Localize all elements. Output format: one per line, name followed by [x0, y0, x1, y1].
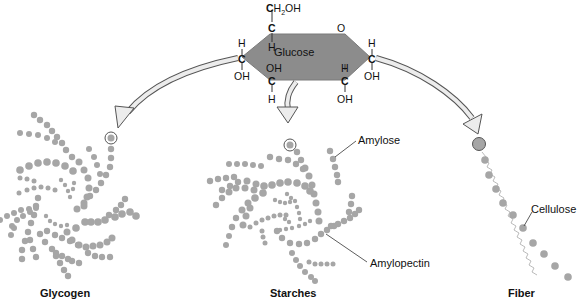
atom-c2-h: H	[341, 63, 349, 74]
arrow-to-fiber	[376, 58, 482, 134]
atom-c3-oh: OH	[266, 63, 282, 74]
atom-c4: C	[238, 54, 246, 65]
starch-molecule	[207, 139, 367, 284]
amylopectin-label: Amylopectin	[370, 257, 430, 269]
glycogen-molecule	[0, 112, 140, 279]
atom-c1-h: H	[368, 38, 376, 49]
atom-c5: C	[268, 23, 276, 34]
atom-c1-oh: OH	[364, 71, 380, 82]
atom-c2-oh: OH	[337, 94, 353, 105]
ring-oxygen: O	[337, 23, 345, 34]
atom-c4-h: H	[238, 38, 246, 49]
atom-c1: C	[368, 54, 376, 65]
glycogen-label: Glycogen	[40, 287, 90, 299]
arrow-to-glycogen	[115, 58, 238, 128]
cellulose-label: Cellulose	[531, 203, 576, 215]
glucose-polymer-diagram: CCH2OH C H O H C OH Glucose OH C H H C O…	[0, 0, 580, 305]
atom-c4-oh: OH	[234, 71, 250, 82]
ch2oh-group: CCH2OH	[266, 3, 301, 16]
arrow-to-starches	[277, 82, 298, 123]
atom-c3-h: H	[268, 94, 276, 105]
atom-c3: C	[268, 76, 276, 87]
amylose-label: Amylose	[358, 134, 400, 146]
atom-c2: C	[341, 76, 349, 87]
fiber-label: Fiber	[508, 287, 535, 299]
starches-label: Starches	[270, 287, 316, 299]
glucose-label: Glucose	[274, 46, 314, 58]
